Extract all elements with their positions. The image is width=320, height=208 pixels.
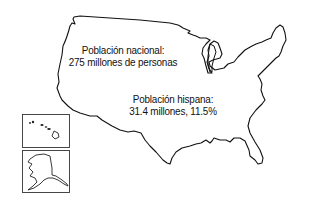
hawaii-islands bbox=[29, 121, 51, 130]
alaska-outline bbox=[28, 154, 68, 190]
national-population-value: 275 millones de personas bbox=[67, 56, 179, 68]
national-population-title: Población nacional: bbox=[67, 44, 179, 56]
hispanic-population-value: 31.4 millones, 11.5% bbox=[126, 105, 221, 117]
hawaii-inset-frame bbox=[23, 115, 70, 148]
hawaii-big-island bbox=[52, 131, 59, 139]
contiguous-us-outline bbox=[57, 16, 286, 164]
hispanic-population-label: Población hispana: 31.4 millones, 11.5% bbox=[126, 93, 221, 117]
national-population-label: Población nacional: 275 millones de pers… bbox=[67, 44, 179, 68]
alaska-inset-frame bbox=[23, 151, 70, 193]
hispanic-population-title: Población hispana: bbox=[126, 93, 221, 105]
